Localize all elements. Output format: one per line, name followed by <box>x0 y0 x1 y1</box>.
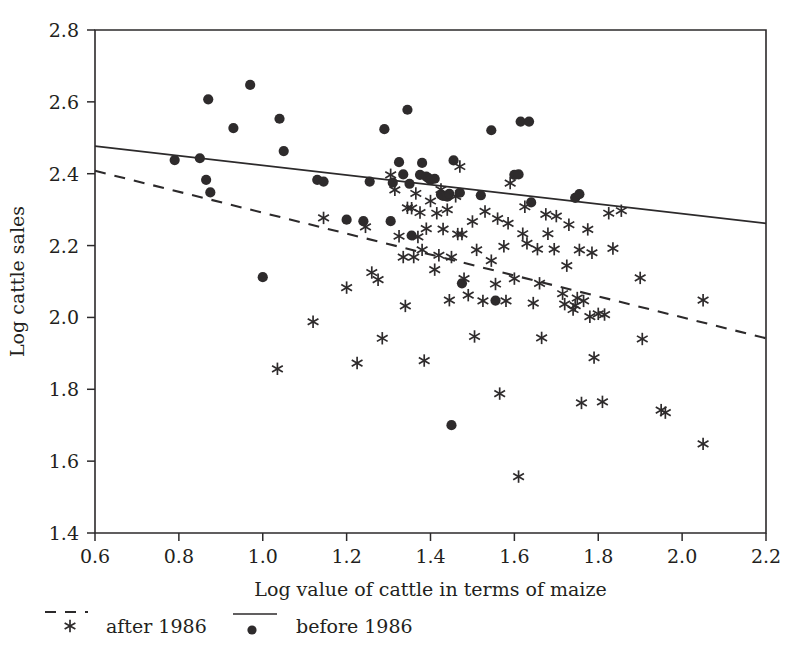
point-after-1986-8 <box>377 332 388 344</box>
point-after-1986-61 <box>543 228 554 240</box>
point-after-1986-19 <box>415 206 426 218</box>
y-tick-label-2.2: 2.2 <box>49 235 79 257</box>
point-after-1986-57 <box>532 243 543 255</box>
legend-entry-after-1986[interactable]: after 1986 <box>45 612 207 637</box>
point-after-1986-12 <box>398 251 409 263</box>
point-after-1986-3 <box>341 281 352 293</box>
y-tick-label-2.0: 2.0 <box>49 306 79 328</box>
point-after-1986-79 <box>597 396 608 408</box>
point-before-1986-14 <box>365 177 375 187</box>
point-after-1986-81 <box>603 207 614 219</box>
point-after-1986-76 <box>587 247 598 259</box>
point-after-1986-62 <box>549 243 560 255</box>
point-after-1986-2 <box>318 212 329 224</box>
x-tick-label-2.2: 2.2 <box>751 545 781 567</box>
point-before-1986-38 <box>486 125 496 135</box>
point-before-1986-24 <box>417 158 427 168</box>
x-tick-label-2.0: 2.0 <box>667 545 697 567</box>
point-after-1986-63 <box>551 210 562 222</box>
point-after-1986-39 <box>469 330 480 342</box>
point-after-1986-47 <box>499 240 510 252</box>
legend-label-after-1986: after 1986 <box>106 615 207 637</box>
point-after-1986-45 <box>492 212 503 224</box>
figure-container: 0.60.81.01.21.41.61.82.02.21.41.61.82.02… <box>0 0 793 662</box>
x-tick-label-1.8: 1.8 <box>583 545 613 567</box>
point-before-1986-12 <box>342 215 352 225</box>
point-after-1986-24 <box>429 263 440 275</box>
point-after-1986-1 <box>308 316 319 328</box>
point-after-1986-43 <box>486 254 497 266</box>
y-tick-label-2.6: 2.6 <box>49 91 79 113</box>
point-after-1986-88 <box>698 294 709 306</box>
point-before-1986-33 <box>446 420 456 430</box>
point-before-1986-20 <box>402 105 412 115</box>
point-before-1986-17 <box>388 178 398 188</box>
point-after-1986-6 <box>366 266 377 278</box>
axes <box>95 30 766 533</box>
point-after-1986-0 <box>272 363 283 375</box>
point-after-1986-25 <box>431 207 442 219</box>
point-after-1986-60 <box>540 208 551 220</box>
point-after-1986-52 <box>513 470 524 482</box>
legend: after 1986before 1986 <box>45 612 413 637</box>
point-after-1986-21 <box>419 354 430 366</box>
point-after-1986-38 <box>467 215 478 227</box>
x-tick-label-1.0: 1.0 <box>248 545 278 567</box>
point-after-1986-59 <box>536 332 547 344</box>
point-before-1986-28 <box>430 174 440 184</box>
point-after-1986-40 <box>471 244 482 256</box>
point-after-1986-72 <box>576 397 587 409</box>
point-after-1986-22 <box>421 222 432 234</box>
x-tick-label-1.2: 1.2 <box>332 545 362 567</box>
point-before-1986-15 <box>379 124 389 134</box>
point-after-1986-30 <box>444 294 455 306</box>
point-after-1986-41 <box>478 295 489 307</box>
legend-asterisk-icon <box>65 620 76 632</box>
legend-label-before-1986: before 1986 <box>296 615 413 637</box>
legend-dot-icon <box>247 625 256 634</box>
point-after-1986-77 <box>589 351 600 363</box>
point-before-1986-46 <box>574 189 584 199</box>
data-points <box>170 80 709 483</box>
point-after-1986-11 <box>394 230 405 242</box>
point-before-1986-4 <box>205 187 215 197</box>
legend-entry-before-1986[interactable]: before 1986 <box>233 614 413 637</box>
point-before-1986-2 <box>203 94 213 104</box>
x-tick-label-0.8: 0.8 <box>164 545 194 567</box>
point-after-1986-89 <box>698 438 709 450</box>
y-tick-label-1.8: 1.8 <box>49 378 79 400</box>
point-after-1986-42 <box>480 205 491 217</box>
point-before-1986-41 <box>513 169 523 179</box>
point-after-1986-85 <box>637 333 648 345</box>
y-tick-label-2.8: 2.8 <box>49 19 79 41</box>
point-before-1986-11 <box>318 177 328 187</box>
point-before-1986-3 <box>201 175 211 185</box>
axis-ticks <box>87 30 766 541</box>
point-after-1986-44 <box>490 278 501 290</box>
point-after-1986-65 <box>559 298 570 310</box>
point-after-1986-48 <box>501 295 512 307</box>
point-before-1986-1 <box>195 153 205 163</box>
point-after-1986-66 <box>561 259 572 271</box>
plot-frame <box>95 30 766 533</box>
point-after-1986-4 <box>352 357 363 369</box>
point-before-1986-0 <box>170 155 180 165</box>
y-tick-label-1.4: 1.4 <box>49 522 79 544</box>
point-after-1986-74 <box>582 223 593 235</box>
point-after-1986-29 <box>442 203 453 215</box>
point-after-1986-84 <box>635 272 646 284</box>
point-after-1986-82 <box>608 242 619 254</box>
point-after-1986-37 <box>463 289 474 301</box>
point-before-1986-9 <box>279 146 289 156</box>
point-before-1986-5 <box>228 123 238 133</box>
point-before-1986-6 <box>245 80 255 90</box>
y-tick-label-2.4: 2.4 <box>49 163 79 185</box>
point-after-1986-28 <box>438 223 449 235</box>
point-before-1986-39 <box>490 295 500 305</box>
point-before-1986-8 <box>274 114 284 124</box>
point-after-1986-31 <box>446 251 457 263</box>
point-after-1986-71 <box>574 244 585 256</box>
point-before-1986-16 <box>386 216 396 226</box>
series-before-1986 <box>170 80 585 430</box>
point-after-1986-46 <box>494 387 505 399</box>
